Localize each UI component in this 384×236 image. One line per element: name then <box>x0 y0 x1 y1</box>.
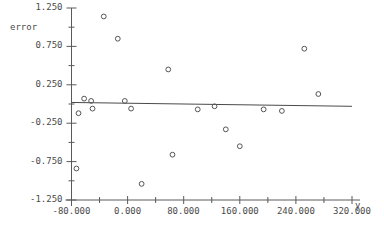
x-axis-title: y <box>355 201 360 210</box>
x-axis-tick-label: -80.000 <box>53 207 91 216</box>
y-axis-tick-label: 0.250 <box>35 80 62 89</box>
y-axis-tick-label: 1.250 <box>35 3 62 12</box>
data-point-marker <box>74 166 79 171</box>
y-axis-tick-label: -0.250 <box>30 118 63 127</box>
data-point-marker <box>237 144 242 149</box>
data-point-marker <box>129 106 134 111</box>
data-point-marker <box>302 46 307 51</box>
data-point-marker <box>82 96 87 101</box>
x-axis-tick-label: 320.000 <box>333 207 371 216</box>
data-point-marker <box>101 14 106 19</box>
x-axis-tick-label: 240.000 <box>277 207 315 216</box>
data-point-marker <box>279 109 284 114</box>
x-axis-tick-label: 160.000 <box>221 207 259 216</box>
y-axis-tick-label: -0.750 <box>30 157 63 166</box>
data-point-marker <box>223 127 228 132</box>
scatter-plot-figure: 1.2500.7500.250-0.250-0.750-1.250-80.000… <box>0 0 384 236</box>
data-point-marker <box>170 152 175 157</box>
data-point-marker <box>76 111 81 116</box>
data-point-marker <box>90 106 95 111</box>
data-point-marker <box>115 36 120 41</box>
data-point-marker <box>195 107 200 112</box>
data-point-marker <box>139 181 144 186</box>
data-point-marker <box>316 92 321 97</box>
y-axis-title: error <box>10 23 37 32</box>
data-point-marker <box>166 67 171 72</box>
y-axis-tick-label: -1.250 <box>30 195 63 204</box>
data-point-marker <box>122 99 127 104</box>
x-axis-tick-label: 0.000 <box>114 207 141 216</box>
y-axis-tick-label: 0.750 <box>35 41 62 50</box>
x-axis-tick-label: 80.000 <box>167 207 200 216</box>
data-point-marker <box>261 107 266 112</box>
